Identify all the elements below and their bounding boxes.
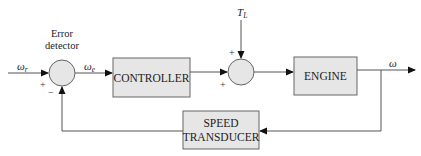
disturbance-summing-junction xyxy=(228,59,254,85)
error-detector-label-line2: detector xyxy=(45,40,79,51)
reference-signal-label: ωr xyxy=(17,60,28,74)
disturbance-junction-left-plus-sign: + xyxy=(220,79,226,90)
speed-transducer-label-line1: SPEED xyxy=(203,117,238,129)
error-detector-summing-junction xyxy=(49,60,75,86)
speed-transducer-label-line2: TRANSDUCER xyxy=(183,131,260,143)
error-detector-plus-sign: + xyxy=(40,79,46,90)
load-torque-label: TL xyxy=(237,6,247,20)
output-signal-label: ω xyxy=(389,57,397,69)
error-detector-label-line1: Error xyxy=(51,28,74,39)
engine-label: ENGINE xyxy=(304,70,347,82)
error-detector-minus-sign: − xyxy=(48,87,54,98)
error-signal-label: ωe xyxy=(84,60,96,74)
control-block-diagram: ωr Error detector + − ωe CONTROLLER TL +… xyxy=(0,0,421,156)
controller-label: CONTROLLER xyxy=(113,72,189,84)
disturbance-junction-top-plus-sign: + xyxy=(229,47,235,58)
